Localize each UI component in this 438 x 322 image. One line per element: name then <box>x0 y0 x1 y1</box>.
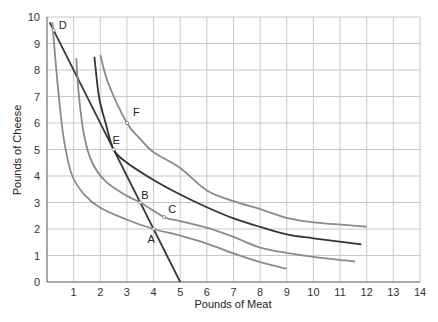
x-tick-label: 3 <box>124 286 130 298</box>
point-marker <box>112 148 115 151</box>
x-tick-label: 7 <box>230 286 236 298</box>
point-label: E <box>113 134 120 146</box>
point-label: A <box>148 233 156 245</box>
y-tick-label: 1 <box>34 250 40 262</box>
point-marker <box>163 215 166 218</box>
x-tick-label: 8 <box>257 286 263 298</box>
y-tick-label: 2 <box>34 223 40 235</box>
point-label: B <box>141 189 148 201</box>
x-tick-label: 13 <box>387 286 399 298</box>
x-tick-label: 5 <box>177 286 183 298</box>
x-tick-label: 14 <box>414 286 426 298</box>
x-tick-label: 11 <box>334 286 345 298</box>
x-tick-label: 12 <box>361 286 373 298</box>
y-tick-label: 9 <box>34 38 40 50</box>
point-marker <box>139 201 142 204</box>
y-tick-label: 4 <box>34 170 40 182</box>
y-tick-label: 8 <box>34 64 40 76</box>
grid <box>47 17 420 282</box>
point-marker <box>152 227 155 230</box>
y-tick-label: 5 <box>34 144 40 156</box>
point-marker <box>125 121 128 124</box>
y-tick-label: 0 <box>34 276 40 288</box>
y-axis-label: Pounds of Cheese <box>11 105 23 196</box>
chart: 1234567891011121314012345678910 ABCDEF P… <box>0 0 438 322</box>
series-layer <box>50 22 367 282</box>
point-label: D <box>59 19 67 31</box>
y-tick-label: 3 <box>34 197 40 209</box>
point-label: C <box>168 203 176 215</box>
y-tick-label: 10 <box>28 11 40 23</box>
y-tick-label: 7 <box>34 91 40 103</box>
point-marker <box>52 29 55 32</box>
point-label: F <box>133 106 140 118</box>
x-tick-label: 2 <box>97 286 103 298</box>
y-tick-label: 6 <box>34 117 40 129</box>
x-tick-label: 10 <box>307 286 319 298</box>
indifference-curve <box>52 22 286 268</box>
x-tick-label: 9 <box>284 286 290 298</box>
x-axis-label: Pounds of Meat <box>194 298 271 310</box>
x-tick-label: 1 <box>71 286 77 298</box>
point-annotations: ABCDEF <box>52 19 176 245</box>
x-tick-label: 4 <box>151 286 157 298</box>
x-tick-label: 6 <box>204 286 210 298</box>
indifference-curve <box>94 57 361 245</box>
